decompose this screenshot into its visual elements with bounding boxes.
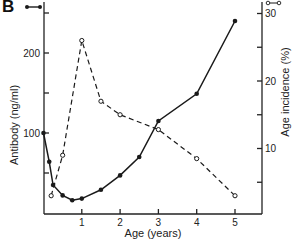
x-tick-label: 5: [232, 217, 238, 228]
y2-tick-label: 10: [265, 143, 277, 154]
y2-tick-label: 20: [265, 76, 277, 87]
y-axis-label: Antibody (ng/ml): [8, 85, 20, 165]
legend-antibody-dot: [25, 5, 29, 9]
legend: [25, 1, 281, 9]
x-tick-label: 4: [194, 217, 200, 228]
antibody-line: [44, 21, 236, 200]
chart: 12345100200102030 Age (years) Antibody (…: [0, 0, 297, 243]
y2-axis-label: Age incidence (%): [279, 47, 291, 136]
x-tick-label: 2: [117, 217, 123, 228]
antibody-point: [80, 196, 85, 201]
antibody-point: [41, 131, 46, 136]
antibody-point: [233, 19, 238, 24]
incidence-point: [61, 153, 65, 157]
incidence-point: [118, 113, 122, 117]
incidence-point: [99, 99, 103, 103]
antibody-point: [99, 188, 104, 193]
x-axis-label: Age (years): [125, 227, 182, 239]
y2-tick-label: 30: [265, 8, 277, 19]
y-tick-label: 200: [23, 48, 40, 59]
incidence-point: [49, 194, 53, 198]
x-tick-label: 1: [79, 217, 85, 228]
y-tick-label: 100: [23, 128, 40, 139]
antibody-point: [70, 198, 75, 203]
antibody-point: [118, 173, 123, 178]
incidence-point: [80, 38, 84, 42]
incidence-point: [233, 194, 237, 198]
incidence-point: [156, 128, 160, 132]
antibody-point: [47, 160, 52, 165]
legend-incidence-dot: [266, 1, 270, 5]
legend-antibody-dot: [38, 5, 42, 9]
legend-incidence-dot: [277, 1, 281, 5]
incidence-line: [51, 41, 235, 196]
antibody-point: [60, 193, 65, 198]
incidence-point: [195, 157, 199, 161]
panel-label: B: [2, 0, 14, 17]
series-layer: [41, 19, 237, 203]
antibody-point: [137, 155, 142, 160]
antibody-point: [194, 92, 199, 97]
antibody-point: [156, 119, 161, 124]
